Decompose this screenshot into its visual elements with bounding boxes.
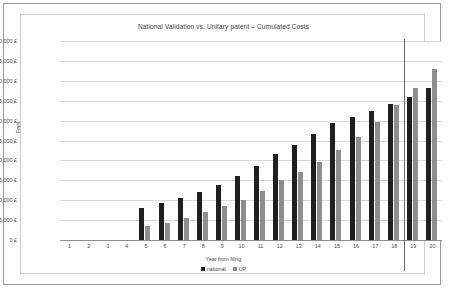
bar-group bbox=[327, 41, 346, 240]
bar-group bbox=[347, 41, 366, 240]
bar-national-year-17 bbox=[369, 111, 374, 240]
bar-national-year-11 bbox=[254, 166, 259, 240]
y-axis-tick-label: 10,000 £ bbox=[0, 197, 17, 203]
bar-UP-year-10 bbox=[241, 200, 246, 240]
bar-UP-year-16 bbox=[356, 137, 361, 240]
page-frame: National Validation vs. Unitary patent –… bbox=[3, 3, 441, 285]
x-axis-tick-label: 18 bbox=[385, 243, 403, 249]
x-axis-tick-label: 13 bbox=[290, 243, 308, 249]
bar-group bbox=[194, 41, 213, 240]
bar-national-year-10 bbox=[235, 176, 240, 240]
y-axis-tick-label: 40,000 £ bbox=[0, 78, 17, 84]
bar-group bbox=[79, 41, 98, 240]
x-axis-tick-label: 2 bbox=[80, 243, 98, 249]
bar-national-year-9 bbox=[216, 185, 221, 240]
bar-group bbox=[289, 41, 308, 240]
bar-UP-year-14 bbox=[317, 162, 322, 240]
bar-national-year-16 bbox=[350, 117, 355, 240]
x-axis-tick-label: 10 bbox=[232, 243, 250, 249]
bar-UP-year-19 bbox=[413, 88, 418, 240]
x-axis-tick-label: 15 bbox=[328, 243, 346, 249]
x-axis-tick-label: 3 bbox=[99, 243, 117, 249]
chart-container: National Validation vs. Unitary patent –… bbox=[20, 14, 425, 274]
chart-legend: nationalUP bbox=[21, 266, 426, 272]
y-axis-tick-label: 30,000 £ bbox=[0, 118, 17, 124]
x-axis-tick-label: 14 bbox=[309, 243, 327, 249]
y-axis-tick-label: 50,000 £ bbox=[0, 38, 17, 44]
bar-UP-year-17 bbox=[375, 122, 380, 240]
chart-title: National Validation vs. Unitary patent –… bbox=[21, 23, 426, 30]
x-axis-tick-label: 12 bbox=[271, 243, 289, 249]
bar-UP-year-13 bbox=[298, 172, 303, 240]
bar-national-year-5 bbox=[139, 208, 144, 240]
x-axis-tick-label: 6 bbox=[156, 243, 174, 249]
x-axis-tick-label: 4 bbox=[118, 243, 136, 249]
bar-national-year-13 bbox=[292, 145, 297, 240]
plot-area bbox=[60, 41, 442, 240]
bar-group bbox=[270, 41, 289, 240]
bar-group bbox=[404, 41, 423, 240]
y-axis-tick-label: 35,000 £ bbox=[0, 98, 17, 104]
bar-group bbox=[117, 41, 136, 240]
legend-label: UP bbox=[239, 266, 247, 272]
legend-swatch-icon bbox=[201, 267, 205, 271]
x-axis-tick-label: 5 bbox=[137, 243, 155, 249]
x-axis-tick-label: 11 bbox=[252, 243, 270, 249]
bar-UP-year-18 bbox=[394, 105, 399, 240]
x-axis-tick-label: 17 bbox=[366, 243, 384, 249]
bar-national-year-18 bbox=[388, 104, 393, 240]
bar-group bbox=[60, 41, 79, 240]
bar-group bbox=[156, 41, 175, 240]
bar-group bbox=[98, 41, 117, 240]
legend-item-national[interactable]: national bbox=[201, 266, 226, 272]
y-axis-tick-labels: 50,000 £45,000 £40,000 £35,000 £30,000 £… bbox=[0, 41, 17, 240]
crossover-marker-line bbox=[404, 39, 405, 271]
legend-item-UP[interactable]: UP bbox=[233, 266, 247, 272]
x-axis-tick-label: 9 bbox=[213, 243, 231, 249]
x-axis-tick-label: 1 bbox=[61, 243, 79, 249]
bar-group bbox=[136, 41, 155, 240]
bar-group bbox=[308, 41, 327, 240]
bar-national-year-15 bbox=[330, 123, 335, 240]
y-axis-tick-label: 0 £ bbox=[0, 237, 17, 243]
bar-group bbox=[232, 41, 251, 240]
legend-swatch-icon bbox=[233, 267, 237, 271]
x-axis-title: Year from filing bbox=[21, 256, 426, 262]
bar-group bbox=[385, 41, 404, 240]
y-axis-tick-label: 25,000 £ bbox=[0, 138, 17, 144]
x-axis-line bbox=[60, 240, 442, 241]
x-axis-tick-label: 7 bbox=[175, 243, 193, 249]
bar-UP-year-9 bbox=[222, 206, 227, 240]
bar-group bbox=[251, 41, 270, 240]
x-axis-tick-label: 8 bbox=[194, 243, 212, 249]
y-axis-tick-label: 5,000 £ bbox=[0, 217, 17, 223]
bar-UP-year-12 bbox=[279, 180, 284, 240]
bar-group bbox=[213, 41, 232, 240]
bar-national-year-6 bbox=[159, 203, 164, 240]
y-axis-tick-label: 15,000 £ bbox=[0, 177, 17, 183]
y-axis-tick-label: 45,000 £ bbox=[0, 58, 17, 64]
bar-national-year-19 bbox=[407, 97, 412, 240]
legend-label: national bbox=[207, 266, 226, 272]
bar-UP-year-11 bbox=[260, 191, 265, 240]
bar-UP-year-6 bbox=[165, 223, 170, 241]
bar-group bbox=[423, 41, 442, 240]
bar-UP-year-7 bbox=[184, 218, 189, 240]
y-axis-tick-label: 20,000 £ bbox=[0, 157, 17, 163]
x-axis-tick-label: 19 bbox=[404, 243, 422, 249]
bar-national-year-7 bbox=[178, 198, 183, 240]
x-axis-tick-label: 20 bbox=[423, 243, 441, 249]
bar-national-year-12 bbox=[273, 154, 278, 240]
bar-national-year-20 bbox=[426, 88, 431, 240]
bar-UP-year-15 bbox=[336, 150, 341, 240]
bar-group bbox=[175, 41, 194, 240]
bar-national-year-14 bbox=[311, 134, 316, 240]
bar-UP-year-20 bbox=[432, 69, 437, 240]
bar-group bbox=[366, 41, 385, 240]
x-axis-tick-label: 16 bbox=[347, 243, 365, 249]
bar-national-year-8 bbox=[197, 192, 202, 240]
bar-UP-year-8 bbox=[203, 212, 208, 240]
bar-UP-year-5 bbox=[145, 226, 150, 240]
